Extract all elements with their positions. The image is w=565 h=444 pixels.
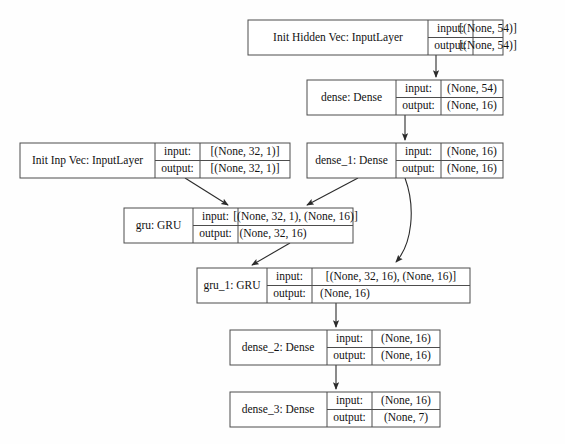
output-shape-value: (None, 32, 16) bbox=[239, 227, 306, 240]
output-row-label: output: bbox=[402, 99, 435, 112]
node-dense-2[interactable]: dense_2: Dense input: output: (None, 16)… bbox=[230, 330, 440, 365]
output-shape-value: (None, 16) bbox=[447, 99, 497, 112]
edge-dense-1-to-gru bbox=[307, 178, 358, 205]
node-title: Init Hidden Vec: InputLayer bbox=[273, 31, 403, 44]
edge-dense-1-to-gru-1 bbox=[396, 178, 411, 262]
input-row-label: input: bbox=[405, 145, 432, 158]
output-row-label: output: bbox=[161, 162, 194, 175]
node-gru-1[interactable]: gru_1: GRU input: output: [(None, 32, 16… bbox=[197, 268, 470, 303]
node-init-hidden-vec[interactable]: Init Hidden Vec: InputLayer input: outpu… bbox=[248, 20, 517, 55]
input-shape-value: [(None, 32, 16), (None, 16)] bbox=[326, 270, 456, 283]
input-row-label: input: bbox=[276, 270, 303, 283]
input-shape-value: (None, 16) bbox=[381, 332, 431, 345]
node-title: dense_3: Dense bbox=[242, 403, 315, 415]
node-dense-1[interactable]: dense_1: Dense input: output: (None, 16)… bbox=[307, 143, 503, 178]
input-shape-value: (None, 16) bbox=[447, 145, 497, 158]
input-shape-value: (None, 16) bbox=[381, 394, 431, 407]
output-shape-value: [(None, 32, 1)] bbox=[211, 162, 280, 175]
node-title: Init Inp Vec: InputLayer bbox=[32, 154, 143, 167]
model-architecture-diagram: Init Hidden Vec: InputLayer input: outpu… bbox=[0, 0, 565, 444]
node-title: gru_1: GRU bbox=[203, 279, 261, 292]
output-row-label: output: bbox=[199, 227, 232, 240]
input-shape-value: [(None, 54)] bbox=[459, 22, 516, 35]
output-shape-value: [(None, 54)] bbox=[459, 39, 516, 52]
output-row-label: output: bbox=[402, 162, 435, 175]
input-row-label: input: bbox=[336, 394, 363, 407]
output-shape-value: (None, 16) bbox=[381, 349, 431, 362]
keras-model-graph: Init Hidden Vec: InputLayer input: outpu… bbox=[0, 0, 565, 444]
node-title: dense_1: Dense bbox=[315, 154, 388, 166]
node-init-inp-vec[interactable]: Init Inp Vec: InputLayer input: output: … bbox=[20, 143, 290, 178]
node-dense[interactable]: dense: Dense input: output: (None, 54) (… bbox=[307, 80, 503, 115]
output-shape-value: (None, 16) bbox=[320, 287, 370, 300]
output-row-label: output: bbox=[333, 349, 366, 362]
output-row-label: output: bbox=[333, 411, 366, 424]
node-dense-3[interactable]: dense_3: Dense input: output: (None, 16)… bbox=[230, 392, 440, 427]
input-shape-value: [(None, 32, 1)] bbox=[211, 145, 280, 158]
input-row-label: input: bbox=[336, 332, 363, 345]
input-row-label: input: bbox=[202, 210, 229, 223]
output-row-label: output: bbox=[273, 287, 306, 300]
node-title: gru: GRU bbox=[136, 219, 182, 232]
output-shape-value: (None, 7) bbox=[384, 411, 428, 424]
output-shape-value: (None, 16) bbox=[447, 162, 497, 175]
edge-gru-to-gru-1 bbox=[252, 243, 290, 265]
node-gru[interactable]: gru: GRU input: output: [(None, 32, 1), … bbox=[124, 208, 358, 243]
node-title: dense_2: Dense bbox=[242, 341, 315, 353]
node-title: dense: Dense bbox=[321, 91, 382, 103]
input-shape-value: [(None, 32, 1), (None, 16)] bbox=[233, 210, 358, 223]
edge-init-inp-vec-to-gru bbox=[185, 178, 228, 205]
input-shape-value: (None, 54) bbox=[447, 82, 497, 95]
input-row-label: input: bbox=[405, 82, 432, 95]
input-row-label: input: bbox=[164, 145, 191, 158]
